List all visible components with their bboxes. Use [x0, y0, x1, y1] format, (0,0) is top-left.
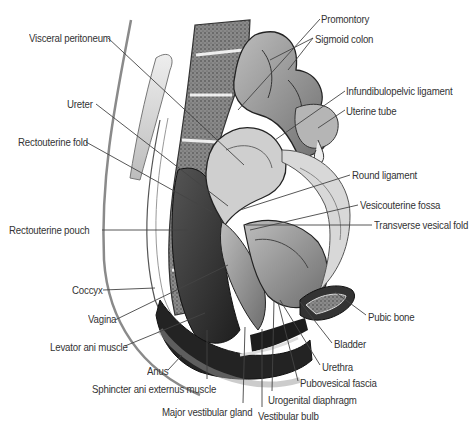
uterus — [206, 128, 286, 225]
label-sphincter-ani-externus-muscle: Sphincter ani externus muscle — [92, 383, 216, 395]
label-major-vestibular-gland: Major vestibular gland — [162, 406, 252, 418]
label-ureter: Ureter — [67, 98, 93, 110]
label-coccyx: Coccyx — [72, 284, 103, 296]
label-sigmoid-colon: Sigmoid colon — [315, 33, 373, 45]
label-round-ligament: Round ligament — [352, 169, 417, 181]
label-urogenital-diaphragm: Urogenital diaphragm — [268, 394, 357, 406]
anatomy-figure: Promontory Visceral peritoneum Sigmoid c… — [0, 0, 469, 425]
label-uterine-tube: Uterine tube — [346, 105, 396, 117]
label-transverse-vesical-fold: Transverse vesical fold — [374, 219, 468, 231]
label-infundibulopelvic-ligament: Infundibulopelvic ligament — [346, 85, 452, 97]
label-bladder: Bladder — [334, 338, 366, 350]
label-vagina: Vagina — [88, 313, 116, 325]
label-visceral-peritoneum: Visceral peritoneum — [29, 32, 111, 44]
label-anus: Anus — [147, 365, 168, 377]
label-rectouterine-pouch: Rectouterine pouch — [9, 224, 89, 236]
label-vesicouterine-fossa: Vesicouterine fossa — [360, 199, 440, 211]
label-pubic-bone: Pubic bone — [368, 311, 415, 323]
label-pubovesical-fascia: Pubovesical fascia — [300, 377, 377, 389]
label-vestibular-bulb: Vestibular bulb — [258, 410, 319, 422]
label-promontory: Promontory — [321, 13, 369, 25]
label-levator-ani-muscle: Levator ani muscle — [50, 341, 128, 353]
pelvis-illustration — [0, 0, 469, 425]
label-rectouterine-fold: Rectouterine fold — [18, 136, 88, 148]
label-urethra: Urethra — [322, 361, 353, 373]
